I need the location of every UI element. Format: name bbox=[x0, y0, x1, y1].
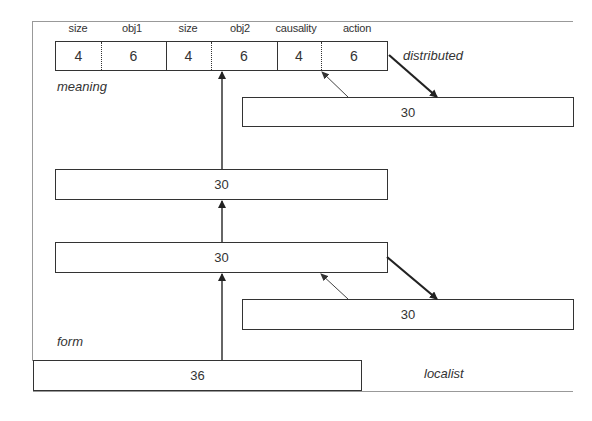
arrow-hidden-to-form-context bbox=[387, 257, 437, 299]
arrow-context-to-meaning bbox=[322, 72, 348, 97]
arrow-form-context-to-hidden bbox=[321, 274, 348, 299]
arrow-meaning-to-context bbox=[389, 55, 437, 97]
connection-arrows bbox=[0, 0, 592, 421]
